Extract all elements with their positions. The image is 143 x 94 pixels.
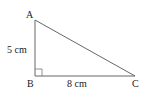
vertex-label-b: B — [27, 79, 34, 89]
vertex-label-c: C — [132, 79, 139, 89]
side-label-bc: 8 cm — [67, 79, 87, 89]
triangle-diagram: A B C 5 cm 8 cm — [0, 0, 143, 94]
right-angle-marker — [35, 69, 42, 76]
vertex-label-a: A — [26, 10, 33, 20]
side-label-ab: 5 cm — [7, 45, 27, 55]
side-ac-hypotenuse — [35, 20, 135, 76]
